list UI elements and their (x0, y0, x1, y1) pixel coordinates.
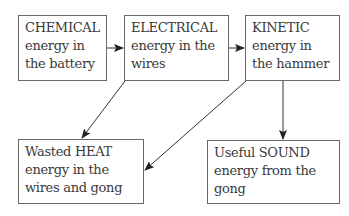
node-text: energy in (252, 37, 333, 55)
arrow-electrical-to-heat (82, 81, 125, 138)
node-text: gong (214, 180, 333, 198)
node-chemical-energy: CHEMICAL energy in the battery (18, 15, 107, 81)
node-text: CHEMICAL (25, 19, 100, 37)
node-electrical-energy: ELECTRICAL energy in the wires (124, 15, 229, 81)
node-useful-sound-energy: Useful SOUND energy from the gong (207, 140, 340, 204)
node-text: the battery (25, 55, 100, 73)
node-text: energy in the (131, 37, 222, 55)
node-text: Wasted HEAT (25, 143, 137, 161)
node-text: ELECTRICAL (131, 19, 222, 37)
node-kinetic-energy: KINETIC energy in the hammer (245, 15, 340, 81)
node-text: wires and gong (25, 179, 137, 197)
node-text: the hammer (252, 55, 333, 73)
node-text: wires (131, 55, 222, 73)
node-text: energy from the (214, 162, 333, 180)
node-wasted-heat-energy: Wasted HEAT energy in the wires and gong (18, 139, 144, 204)
node-text: KINETIC (252, 19, 333, 37)
node-text: energy in the (25, 161, 137, 179)
node-text: Useful SOUND (214, 144, 333, 162)
node-text: energy in (25, 37, 100, 55)
